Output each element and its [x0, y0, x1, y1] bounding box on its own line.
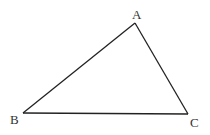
vertex-label-b: B [10, 112, 19, 127]
edge-ca [135, 23, 188, 114]
triangle-diagram: A B C [0, 0, 210, 135]
edge-bc [23, 113, 188, 114]
vertex-label-c: C [190, 115, 199, 130]
edge-ab [23, 23, 135, 113]
vertex-label-a: A [132, 7, 142, 22]
